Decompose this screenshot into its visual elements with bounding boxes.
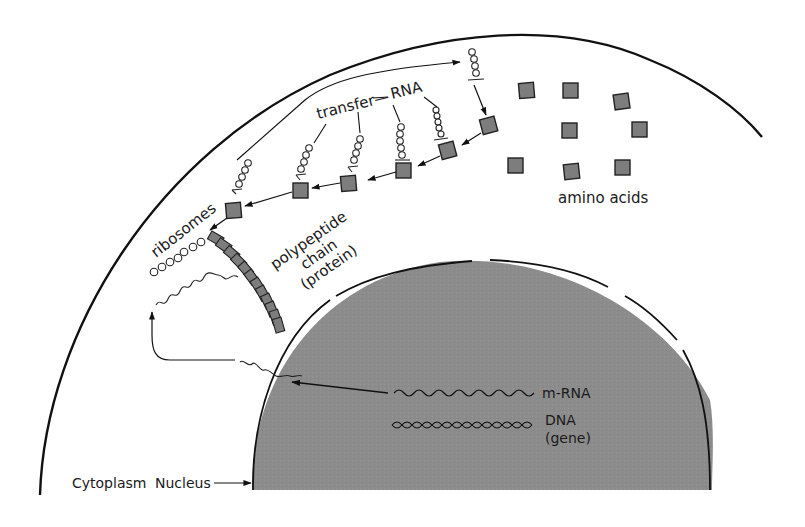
cytoplasm-label: Cytoplasm [72, 475, 146, 491]
trna-2 [433, 107, 448, 140]
nucleus [253, 260, 713, 490]
dna-label: DNA [545, 412, 576, 428]
attached-amino-acids [225, 116, 497, 218]
mrna-cytoplasm [156, 273, 238, 305]
amino-acids-label: amino acids [558, 189, 649, 207]
mrna-label: m-RNA [542, 385, 591, 401]
trna-6 [232, 160, 251, 194]
trna-label-suffix: RNA [389, 78, 425, 103]
trna-label: transfer— [315, 87, 391, 122]
trna-molecules [232, 49, 484, 194]
mrna-exit-path [152, 312, 235, 360]
dna-gene-label: (gene) [545, 430, 591, 446]
polypeptide-chain [207, 231, 284, 333]
amino-acids-group [508, 82, 647, 179]
trna-1 [468, 49, 484, 80]
protein-synthesis-diagram: transfer— RNA amino acids ribosomes poly… [0, 0, 805, 527]
trna-5 [296, 145, 312, 180]
nucleus-label: Nucleus [155, 475, 211, 491]
trna-4 [348, 136, 363, 172]
trna-3 [395, 124, 410, 160]
